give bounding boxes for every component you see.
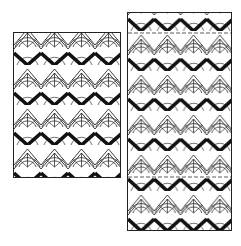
pattern-swatch-right xyxy=(127,12,232,231)
pattern-swatch-left xyxy=(13,32,121,178)
artdeco-pattern-left xyxy=(14,33,121,178)
artdeco-pattern-right xyxy=(128,13,232,231)
